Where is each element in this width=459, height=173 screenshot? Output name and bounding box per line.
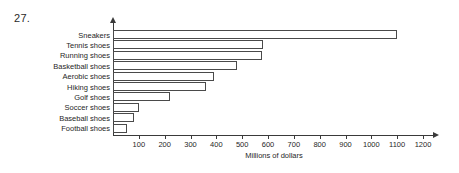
x-axis-tick <box>242 135 243 139</box>
x-axis-tick-label: 700 <box>288 140 301 149</box>
x-axis-tick-label: 400 <box>210 140 223 149</box>
x-axis-title: Millions of dollars <box>113 151 435 160</box>
bar <box>113 92 170 101</box>
category-label: Aerobic shoes <box>62 72 110 81</box>
x-axis-tick-label: 1200 <box>415 140 432 149</box>
bar <box>113 103 139 112</box>
x-axis-tick <box>216 135 217 139</box>
bar <box>113 82 206 91</box>
x-axis-tick <box>371 135 372 139</box>
x-axis-arrow-icon <box>433 132 439 138</box>
bar <box>113 113 134 122</box>
x-axis-tick-label: 800 <box>313 140 326 149</box>
x-axis-tick <box>320 135 321 139</box>
x-axis-tick <box>397 135 398 139</box>
x-axis-tick <box>191 135 192 139</box>
category-label: Baseball shoes <box>59 113 110 122</box>
category-label: Basketball shoes <box>53 61 110 70</box>
figure: 27. SneakersTennis shoesRunning shoesBas… <box>0 0 459 173</box>
bar <box>113 40 263 49</box>
x-axis-tick <box>165 135 166 139</box>
bar <box>113 72 214 81</box>
x-axis-tick <box>294 135 295 139</box>
x-axis-tick <box>423 135 424 139</box>
x-axis-tick-label: 600 <box>262 140 275 149</box>
category-label: Tennis shoes <box>66 40 110 49</box>
x-axis-tick-label: 300 <box>184 140 197 149</box>
bar <box>113 61 237 70</box>
bar-chart-plot: SneakersTennis shoesRunning shoesBasketb… <box>0 0 459 173</box>
x-axis-tick-label: 200 <box>158 140 171 149</box>
category-label: Golf shoes <box>74 92 110 101</box>
x-axis-tick <box>346 135 347 139</box>
y-axis-arrow-icon <box>110 17 116 23</box>
category-label: Hiking shoes <box>67 82 110 91</box>
bar <box>113 51 262 60</box>
x-axis-tick <box>268 135 269 139</box>
bar <box>113 124 127 133</box>
category-label: Sneakers <box>78 30 110 39</box>
category-label: Football shoes <box>61 124 110 133</box>
x-axis-tick-label: 1100 <box>389 140 405 149</box>
category-label: Soccer shoes <box>65 103 110 112</box>
x-axis-tick-label: 100 <box>133 140 146 149</box>
x-axis-tick-label: 1000 <box>363 140 380 149</box>
x-axis-tick <box>139 135 140 139</box>
bar <box>113 30 397 39</box>
x-axis-tick-label: 500 <box>236 140 249 149</box>
x-axis-tick-label: 900 <box>339 140 352 149</box>
x-axis-line <box>113 135 435 136</box>
category-label: Running shoes <box>60 51 110 60</box>
